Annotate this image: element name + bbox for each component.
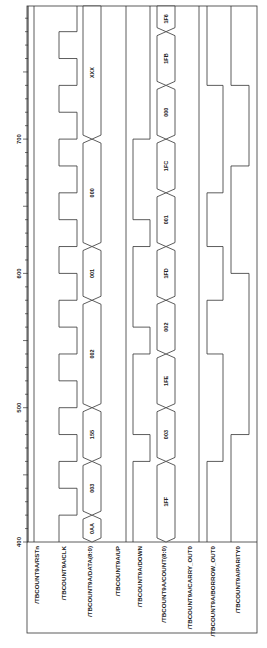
- bus-value: 002: [163, 323, 169, 332]
- signal-name-label: /TBCOUNT9A/DATA(8:0): [86, 546, 93, 617]
- signal-lane: [207, 6, 223, 542]
- signal-lane: [133, 6, 150, 542]
- signal-lane: 1FF0031FE0021FD0011FC0001FB1F6: [157, 6, 175, 542]
- signal-labels: /TBCOUNT9A/RSTn/TBCOUNT9A/CLK/TBCOUNT9A/…: [33, 545, 241, 636]
- diagram-frame: [27, 6, 257, 633]
- bus-value: 002: [89, 349, 95, 358]
- signal-name-label: /TBCOUNT9A/UP: [114, 546, 121, 596]
- signal-name-label: /TBCOUNT9A/CLK: [60, 545, 67, 600]
- bus-value: 1FD: [163, 268, 169, 278]
- bit-waveform: [231, 6, 249, 542]
- signal-lanes: 0AA003155002001000XXX1FF0031FE0021FD0011…: [34, 6, 249, 542]
- bus-value: XXX: [89, 67, 95, 78]
- signal-name-label: /TBCOUNT9A/PARITY0: [234, 545, 241, 613]
- bus-value: 0AA: [89, 523, 95, 534]
- bit-waveform: [59, 6, 77, 542]
- signal-name-label: /TBCOUNT9A/BORROW_OUT0: [209, 545, 216, 636]
- bus-value: 000: [163, 108, 169, 117]
- bit-waveform: [207, 6, 223, 542]
- bus-value: 1FF: [163, 496, 169, 506]
- time-tick-label: 700: [16, 133, 22, 144]
- signal-name-label: /TBCOUNT9A/DOWN: [136, 545, 143, 607]
- bus-value: 000: [89, 188, 95, 197]
- time-tick-label: 400: [16, 536, 22, 547]
- bus-value: 1F6: [163, 14, 169, 23]
- bus-value: 003: [89, 484, 95, 493]
- bus-value: 1FC: [163, 161, 169, 171]
- bus-value: 001: [89, 269, 95, 278]
- signal-lane: [231, 6, 249, 542]
- signal-lane: [59, 6, 77, 542]
- bus-value: 155: [89, 430, 95, 439]
- waveform-diagram: 400500600700 0AA003155002001000XXX1FF003…: [0, 0, 267, 648]
- bit-waveform: [133, 6, 150, 542]
- signal-name-label: /TBCOUNT9A/CARRY_OUT0: [186, 545, 193, 629]
- time-tick-label: 600: [16, 268, 22, 279]
- signal-lane: 0AA003155002001000XXX: [83, 6, 101, 542]
- frame-border: [27, 6, 257, 633]
- bus-value: 1FB: [163, 53, 169, 63]
- bus-value: 001: [163, 215, 169, 224]
- signal-name-label: /TBCOUNT9A/RSTn: [33, 546, 40, 604]
- bus-value: 1FE: [163, 375, 169, 385]
- signal-name-label: /TBCOUNT9A/COUNT(8:0): [160, 546, 167, 623]
- bus-value: 003: [163, 430, 169, 439]
- time-tick-label: 500: [16, 402, 22, 413]
- time-axis: 400500600700: [16, 6, 28, 547]
